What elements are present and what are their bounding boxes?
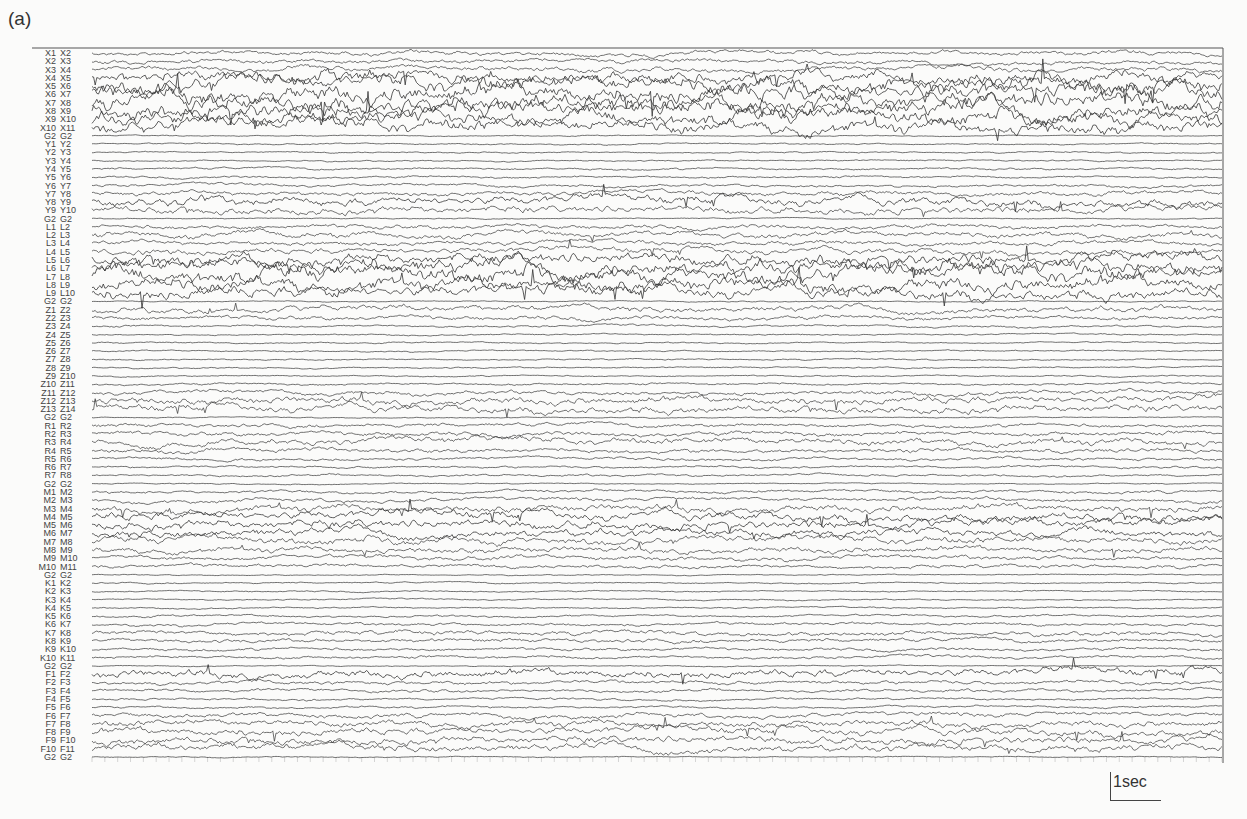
channel-trace <box>92 456 1222 462</box>
channel-trace <box>92 270 1222 309</box>
channel-trace <box>92 654 1222 660</box>
channel-trace <box>92 614 1222 618</box>
channel-trace <box>92 489 1222 494</box>
channel-trace <box>92 581 1222 584</box>
time-scale-label: 1sec <box>1113 773 1147 791</box>
channel-trace <box>92 687 1222 693</box>
channel-trace <box>92 50 1222 59</box>
channel-trace <box>92 447 1222 454</box>
channel-trace <box>92 217 1222 219</box>
channel-trace <box>92 590 1222 593</box>
channel-trace <box>92 647 1222 652</box>
channel-trace <box>92 246 1222 270</box>
channel-trace <box>92 251 1222 281</box>
channel-trace <box>92 417 1222 419</box>
eeg-figure: (a) X1X2X2X3X3X4X4X5X5X6X6X7X7X8X8X9X9X1… <box>0 0 1247 819</box>
channel-trace <box>92 563 1222 570</box>
channel-trace <box>92 366 1222 369</box>
channel-trace <box>92 422 1222 429</box>
channel-trace <box>92 358 1222 360</box>
channel-trace <box>92 388 1222 397</box>
channel-traces <box>92 50 1222 759</box>
channel-trace <box>92 697 1222 701</box>
channel-trace <box>92 301 1222 303</box>
channel-trace <box>92 473 1222 478</box>
channel-trace <box>92 630 1222 638</box>
channel-label: G2 <box>60 752 72 762</box>
channel-trace <box>92 350 1222 353</box>
channel-trace <box>92 176 1222 180</box>
channel-trace <box>92 315 1222 323</box>
channel-trace <box>92 324 1222 329</box>
channel-trace <box>92 68 1222 102</box>
channel-trace <box>92 303 1222 315</box>
channel-trace <box>92 382 1222 386</box>
channel-trace <box>92 716 1222 730</box>
channel-trace <box>92 543 1222 557</box>
channel-trace <box>92 499 1222 526</box>
channel-trace <box>92 740 1222 755</box>
channel-trace <box>92 399 1222 417</box>
channel-trace <box>92 554 1222 562</box>
eeg-plot: X1X2X2X3X3X4X4X5X5X6X6X7X7X8X8X9X9X10X10… <box>0 0 1247 819</box>
channel-trace <box>92 64 1222 74</box>
channel-trace <box>92 166 1222 170</box>
channel-trace <box>92 496 1222 504</box>
channel-trace <box>92 705 1222 709</box>
channel-trace <box>92 342 1222 345</box>
channel-trace <box>92 621 1222 627</box>
channel-trace <box>92 189 1222 197</box>
channel-trace <box>92 151 1222 153</box>
channel-trace <box>92 431 1222 439</box>
channel-trace <box>92 665 1222 667</box>
channel-trace <box>92 83 1222 122</box>
channel-trace <box>92 160 1222 163</box>
channel-trace <box>92 59 1222 117</box>
channel-trace <box>92 606 1222 609</box>
channel-trace <box>92 240 1222 258</box>
channel-trace <box>92 679 1222 686</box>
channel-trace <box>92 64 1222 88</box>
channel-trace <box>92 598 1222 601</box>
channel-trace <box>92 113 1222 141</box>
channel-label: G2 <box>44 752 56 762</box>
channel-trace <box>92 712 1222 720</box>
channel-trace <box>92 465 1222 468</box>
channel-trace <box>92 202 1222 217</box>
channel-trace <box>92 637 1222 644</box>
channel-trace <box>92 58 1222 66</box>
channel-trace <box>92 574 1222 576</box>
channel-trace <box>92 135 1222 137</box>
channel-trace <box>92 435 1222 450</box>
channel-trace <box>92 375 1222 378</box>
channel-trace <box>92 143 1222 146</box>
channel-labels: X1X2X2X3X3X4X4X5X5X6X6X7X7X8X8X9X9X10X10… <box>38 48 77 762</box>
channel-trace <box>92 184 1222 211</box>
channel-trace <box>92 229 1222 242</box>
channel-trace <box>92 483 1222 485</box>
channel-trace <box>92 333 1222 336</box>
channel-trace <box>92 224 1222 232</box>
channel-trace <box>92 238 1222 246</box>
channel-trace <box>92 533 1222 546</box>
channel-trace <box>92 182 1222 189</box>
channel-trace <box>92 392 1222 410</box>
